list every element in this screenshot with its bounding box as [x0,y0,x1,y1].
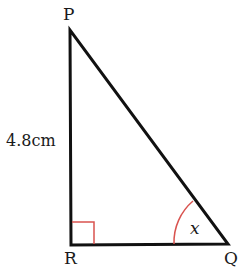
vertex-label-r: R [64,250,77,267]
triangle-diagram: P R Q 4.8cm x [0,0,241,268]
triangle-pqr [70,30,228,245]
vertex-label-q: Q [224,250,238,267]
angle-label-x: x [190,220,200,237]
right-angle-marker [72,222,94,244]
side-length-label: 4.8cm [6,133,56,149]
vertex-label-p: P [63,6,74,23]
